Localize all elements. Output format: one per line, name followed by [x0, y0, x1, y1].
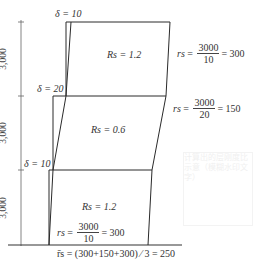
denominator: 10: [203, 54, 213, 65]
drift-label-bottom: δ = 10: [24, 159, 50, 169]
numerator: 3000: [193, 97, 215, 109]
bottom-story-drift-line: [49, 170, 53, 245]
rs-var: rs: [177, 48, 185, 59]
denominator: 10: [83, 233, 93, 244]
result: = 150: [217, 103, 240, 114]
rs-var: rs: [173, 103, 181, 114]
watermark: 计算出的层刚度比示意（模糊水印文字）: [183, 152, 253, 226]
drift-label-middle: δ = 20: [37, 84, 63, 94]
story-height-top: 3,000: [0, 48, 8, 69]
rs-formula-top: rs = 3000 10 = 300: [177, 42, 245, 65]
rs-label-bottom: Rs = 1.2: [82, 202, 116, 212]
fraction: 3000 10: [77, 221, 99, 244]
result: = 300: [221, 48, 244, 59]
fraction: 3000 20: [193, 97, 215, 120]
rs-label-top: Rs = 1.2: [107, 50, 141, 60]
rs-formula-middle: rs = 3000 20 = 150: [173, 97, 241, 120]
fraction: 3000 10: [197, 42, 219, 65]
drift-label-top: δ = 10: [55, 9, 81, 19]
story-height-bottom: 3,000: [0, 197, 8, 218]
numerator: 3000: [77, 221, 99, 233]
rs-var: rs: [57, 227, 65, 238]
equals: =: [181, 103, 192, 114]
rs-label-middle: Rs = 0.6: [91, 125, 125, 135]
numerator: 3000: [197, 42, 219, 54]
bottom-story-right-column: [148, 170, 152, 245]
story-height-middle: 3,000: [0, 122, 8, 143]
equals: =: [185, 48, 196, 59]
result: = 300: [101, 227, 124, 238]
equals: =: [65, 227, 76, 238]
rs-formula-bottom: rs = 3000 10 = 300: [57, 221, 125, 244]
middle-story-drift-line: [53, 96, 66, 170]
average-rs-formula: r̄s = (300+150+300) ⁄ 3 = 250: [57, 249, 175, 259]
middle-story-right-column: [152, 96, 166, 170]
top-story-right-column: [166, 22, 170, 96]
denominator: 20: [199, 109, 209, 120]
top-story-drift-line: [66, 22, 71, 96]
